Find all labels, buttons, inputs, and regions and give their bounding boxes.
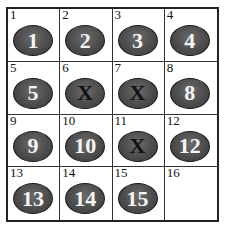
cell-index: 4 (167, 8, 174, 22)
cell-13[interactable]: 1313 (8, 167, 60, 220)
cell-index: 13 (10, 166, 23, 180)
number-token[interactable]: 3 (118, 25, 158, 56)
cell-12[interactable]: 1212 (165, 115, 217, 168)
number-token[interactable]: 1 (13, 25, 53, 56)
cell-8[interactable]: 88 (165, 62, 217, 115)
number-token[interactable]: 4 (170, 25, 210, 56)
cell-index: 5 (10, 61, 17, 75)
cell-10[interactable]: 1010 (60, 115, 112, 168)
cell-7[interactable]: 7X (113, 62, 165, 115)
cell-index: 10 (62, 114, 75, 128)
cell-6[interactable]: 6X (60, 62, 112, 115)
number-token[interactable]: 14 (65, 183, 105, 214)
number-token[interactable]: 9 (13, 131, 53, 162)
cell-index: 2 (62, 8, 69, 22)
cell-16-empty[interactable]: 16 (165, 167, 217, 220)
cell-index: 7 (115, 61, 122, 75)
cell-index: 11 (115, 114, 128, 128)
cell-2[interactable]: 22 (60, 9, 112, 62)
number-token[interactable]: 5 (13, 78, 53, 109)
cell-9[interactable]: 99 (8, 115, 60, 168)
cell-index: 14 (62, 166, 75, 180)
number-token[interactable]: 8 (170, 78, 210, 109)
cell-index: 8 (167, 61, 174, 75)
cell-index: 6 (62, 61, 69, 75)
number-token[interactable]: 15 (118, 183, 158, 214)
cell-index: 9 (10, 114, 17, 128)
cell-index: 3 (115, 8, 122, 22)
number-token[interactable]: 13 (13, 183, 53, 214)
cell-index: 12 (167, 114, 180, 128)
cell-4[interactable]: 44 (165, 9, 217, 62)
cell-1[interactable]: 11 (8, 9, 60, 62)
cell-index: 1 (10, 8, 17, 22)
cell-index: 16 (167, 166, 180, 180)
puzzle-board: 11 22 33 44 55 6X 7X 88 99 1010 11X 1212… (6, 7, 219, 222)
cell-5[interactable]: 55 (8, 62, 60, 115)
number-token[interactable]: 10 (65, 131, 105, 162)
blocked-x-token[interactable]: X (118, 78, 158, 109)
cell-11[interactable]: 11X (113, 115, 165, 168)
cell-15[interactable]: 1515 (113, 167, 165, 220)
blocked-x-token[interactable]: X (118, 131, 158, 162)
cell-index: 15 (115, 166, 128, 180)
blocked-x-token[interactable]: X (65, 78, 105, 109)
cell-14[interactable]: 1414 (60, 167, 112, 220)
number-token[interactable]: 2 (65, 25, 105, 56)
cell-3[interactable]: 33 (113, 9, 165, 62)
number-token[interactable]: 12 (170, 131, 210, 162)
